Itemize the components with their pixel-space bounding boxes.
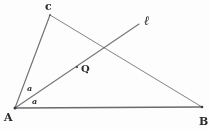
vertex-label-B: B: [199, 116, 209, 127]
geometry-figure-canvas: A B c Q ℓ a a: [0, 0, 210, 129]
vertex-label-C: c: [45, 1, 52, 12]
vertex-label-A: A: [4, 112, 13, 123]
segment-CB: [50, 15, 202, 107]
segment-AB: [15, 107, 202, 108]
angle-label-upper-a: a: [27, 84, 32, 92]
point-label-Q: Q: [81, 64, 90, 74]
point-dot-Q: [76, 66, 78, 68]
segment-AC: [15, 15, 50, 108]
figure-svg: [0, 0, 210, 129]
vertex-dot-C: [49, 14, 51, 16]
angle-label-lower-a: a: [32, 97, 37, 105]
vertex-dot-B: [201, 106, 204, 109]
vertex-dot-A: [14, 107, 17, 110]
ray-label-l: ℓ: [144, 14, 150, 27]
